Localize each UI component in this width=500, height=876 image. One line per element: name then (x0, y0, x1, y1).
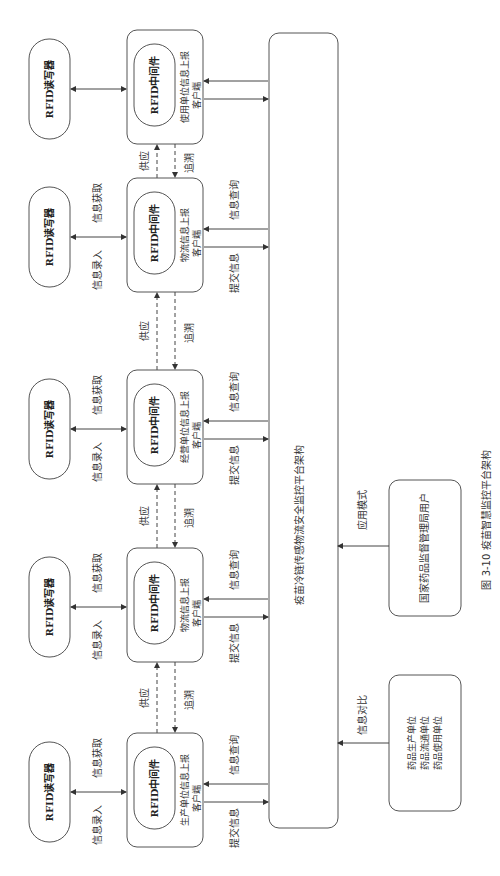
info-input-label: 信息录入 (91, 620, 103, 660)
client-suffix-label: 客户端 (191, 600, 202, 627)
unit-label-0: 药品生产单位 (406, 716, 417, 770)
client-label: 经营单位信息上报 (179, 391, 190, 463)
trace-label: 追溯 (183, 323, 195, 343)
supply-label: 供应 (138, 506, 150, 526)
stage-4: RFID读写器RFID中间件生产单位信息上报客户端信息录入信息获取信息查询提交信… (29, 733, 268, 848)
unit-label-1: 药品流通单位 (419, 716, 430, 770)
platform-box (269, 33, 338, 828)
client-label: 物流信息上报 (179, 208, 190, 262)
submit-info-label: 提交信息 (228, 808, 240, 848)
app-mode-label: 应用模式 (356, 490, 368, 530)
info-input-label: 信息录入 (91, 442, 103, 482)
architecture-diagram: 疫苗冷链传感物流安全监控平台架构 RFID读写器RFID中间件使用单位信息上报客… (0, 0, 500, 876)
rfid-middleware-label: RFID中间件 (148, 56, 160, 115)
compare-label: 信息对比 (356, 695, 368, 735)
client-label: 使用单位信息上报 (179, 51, 190, 123)
info-fetch-label: 信息获取 (91, 738, 103, 778)
client-label: 物流信息上报 (179, 578, 190, 632)
rfid-reader-label: RFID读写器 (43, 577, 55, 637)
info-fetch-label: 信息获取 (91, 375, 103, 415)
figure-caption: 图 3-10 疫苗智慧监控平台架构 (480, 450, 492, 589)
rfid-reader-label: RFID读写器 (43, 59, 55, 119)
rfid-middleware-label: RFID中间件 (148, 396, 160, 455)
info-fetch-label: 信息获取 (91, 553, 103, 593)
stage-0: RFID读写器RFID中间件使用单位信息上报客户端供应追溯 (29, 30, 268, 178)
trace-label: 追溯 (183, 508, 195, 528)
stage-3: RFID读写器RFID中间件物流信息上报客户端信息录入信息获取信息查询提交信息供… (29, 548, 268, 733)
client-suffix-label: 客户端 (191, 785, 202, 812)
info-query-label: 信息查询 (228, 180, 240, 220)
trace-label: 追溯 (183, 690, 195, 710)
submit-info-label: 提交信息 (228, 623, 240, 663)
rfid-middleware-label: RFID中间件 (148, 759, 160, 818)
info-input-label: 信息录入 (91, 250, 103, 290)
supply-label: 供应 (138, 688, 150, 708)
info-input-label: 信息录入 (91, 805, 103, 845)
info-query-label: 信息查询 (228, 735, 240, 775)
unit-label-2: 药品使用单位 (432, 716, 443, 770)
trace-label: 追溯 (183, 153, 195, 173)
rfid-middleware-label: RFID中间件 (148, 574, 160, 633)
client-suffix-label: 客户端 (191, 82, 202, 109)
rfid-middleware-label: RFID中间件 (148, 204, 160, 263)
stage-1: RFID读写器RFID中间件物流信息上报客户端信息录入信息获取信息查询提交信息供… (29, 178, 268, 370)
client-label: 生产单位信息上报 (179, 754, 190, 826)
submit-info-label: 提交信息 (228, 445, 240, 485)
client-suffix-label: 客户端 (191, 422, 202, 449)
regulator-user-label: 国家药品监督管理局用户 (418, 493, 430, 603)
info-query-label: 信息查询 (228, 550, 240, 590)
stage-2: RFID读写器RFID中间件经营单位信息上报客户端信息录入信息获取信息查询提交信… (29, 370, 268, 548)
info-query-label: 信息查询 (228, 372, 240, 412)
client-suffix-label: 客户端 (191, 230, 202, 257)
rfid-reader-label: RFID读写器 (43, 399, 55, 459)
info-fetch-label: 信息获取 (91, 183, 103, 223)
supply-label: 供应 (138, 151, 150, 171)
rfid-reader-label: RFID读写器 (43, 207, 55, 267)
platform-label: 疫苗冷链传感物流安全监控平台架构 (293, 445, 305, 605)
rfid-reader-label: RFID读写器 (43, 762, 55, 822)
submit-info-label: 提交信息 (228, 253, 240, 293)
supply-label: 供应 (138, 321, 150, 341)
